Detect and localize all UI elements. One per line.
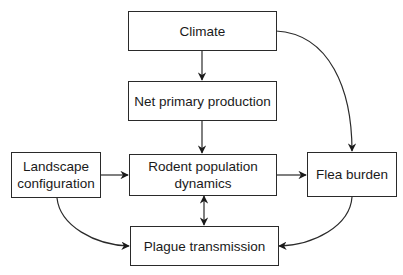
edge-climate-flea — [276, 31, 352, 151]
node-landscape-label-line1: Landscape — [23, 158, 89, 175]
node-rodent-label-line1: Rodent population — [148, 158, 258, 175]
node-landscape-configuration: Landscape configuration — [11, 152, 101, 198]
node-rodent-label-line2: dynamics — [174, 175, 231, 192]
node-npp-label: Net primary production — [134, 93, 271, 110]
node-net-primary-production: Net primary production — [128, 81, 277, 121]
node-plague-label: Plague transmission — [144, 238, 266, 255]
edge-flea-plague — [279, 197, 352, 246]
node-climate-label: Climate — [180, 23, 226, 40]
node-flea-burden: Flea burden — [307, 152, 397, 197]
node-flea-label: Flea burden — [316, 166, 388, 183]
node-plague-transmission: Plague transmission — [130, 226, 279, 266]
node-landscape-label-line2: configuration — [17, 175, 94, 192]
node-climate: Climate — [128, 11, 277, 51]
edge-landscape-plague — [57, 198, 129, 246]
node-rodent-population-dynamics: Rodent population dynamics — [129, 154, 277, 196]
